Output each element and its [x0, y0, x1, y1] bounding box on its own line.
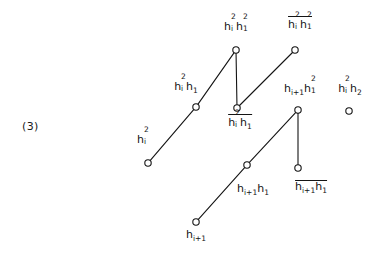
math-expression: h2ih21 — [288, 16, 312, 31]
lattice-edge — [239, 52, 292, 105]
math-expression: hi+1h1 — [295, 180, 327, 193]
lattice-diagram — [0, 0, 387, 256]
node-label-hi2h2: h2ih2 — [338, 80, 362, 95]
lattice-node — [244, 162, 250, 168]
lattice-node — [292, 47, 298, 53]
lattice-node — [346, 108, 352, 114]
math-expression: h2i — [137, 131, 149, 146]
node-label-hi2h1: h2ih1 — [174, 78, 198, 93]
math-expression: hi+1h1 — [237, 182, 269, 195]
lattice-node — [295, 107, 301, 113]
lattice-edge — [198, 53, 234, 105]
node-label-hi2h12-bar: h2ih21 — [288, 16, 312, 31]
math-expression: h2ih1 — [228, 114, 252, 129]
node-layer — [145, 47, 352, 225]
math-expression: hi+1 — [186, 228, 206, 241]
math-expression: h2ih21 — [224, 18, 248, 33]
node-label-hi1h1-bar: hi+1h1 — [295, 180, 327, 193]
lattice-node — [193, 104, 199, 110]
math-expression: h2ih2 — [338, 80, 362, 95]
lattice-node — [193, 219, 199, 225]
lattice-edge — [236, 53, 237, 105]
lattice-edge — [249, 112, 296, 162]
edge-layer — [150, 52, 298, 219]
lattice-node — [295, 165, 301, 171]
lattice-node — [233, 47, 239, 53]
math-expression: h2ih1 — [174, 78, 198, 93]
node-label-hi1h12: hi+1h21 — [284, 80, 316, 95]
node-label-hi1h1: hi+1h1 — [237, 182, 269, 195]
lattice-edge — [150, 109, 194, 160]
node-label-hi2: h2i — [137, 131, 149, 146]
node-label-hi2h12: h2ih21 — [224, 18, 248, 33]
math-expression: hi+1h21 — [284, 80, 316, 95]
lattice-node — [145, 160, 151, 166]
node-label-hi2h1-bar: h2ih1 — [228, 114, 252, 129]
figure-canvas: (3) h2ih21h2ih21h2ih1h2ih1hi+1h21h2ih2h2… — [0, 0, 387, 256]
node-label-hi1: hi+1 — [186, 228, 206, 241]
